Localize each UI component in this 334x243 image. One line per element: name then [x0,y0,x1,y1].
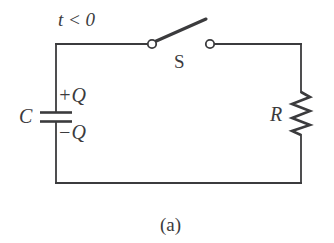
resistor-symbol [292,92,310,135]
switch-symbol[interactable] [148,19,214,48]
switch-blade[interactable] [154,19,206,42]
switch-terminal-left[interactable] [148,40,156,48]
circuit-figure: t < 0 C +Q −Q S R (a) [0,0,334,243]
resistor-label: R [270,104,282,124]
time-condition-label: t < 0 [58,10,95,29]
switch-terminal-right[interactable] [206,40,214,48]
capacitor-label: C [19,106,32,126]
figure-caption: (a) [160,215,181,234]
positive-charge-label: +Q [58,85,86,105]
circuit-schematic [0,0,334,243]
switch-label: S [174,52,185,71]
negative-charge-label: −Q [58,122,86,142]
